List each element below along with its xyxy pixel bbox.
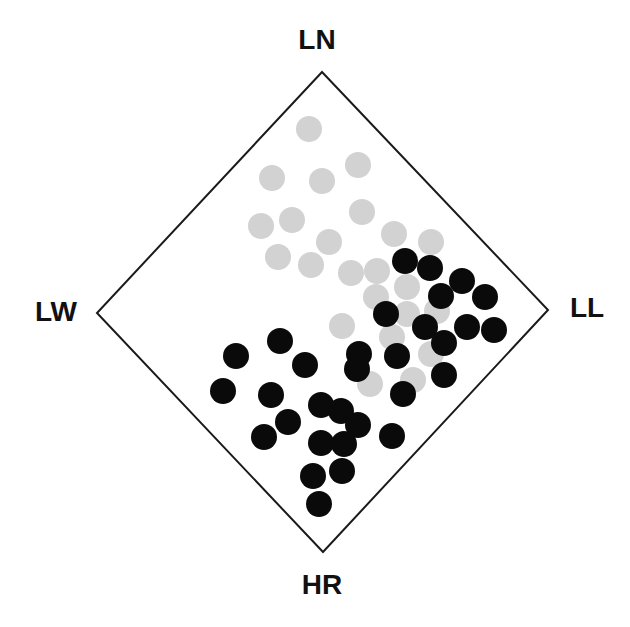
data-point-black [384, 343, 410, 369]
data-point-gray [381, 221, 407, 247]
data-point-gray [418, 229, 444, 255]
diamond-scatter-chart [0, 0, 630, 627]
data-point-black [251, 424, 277, 450]
data-point-gray [338, 260, 364, 286]
data-point-black [428, 283, 454, 309]
data-point-black [306, 491, 332, 517]
data-point-black [344, 356, 370, 382]
data-point-gray [298, 252, 324, 278]
data-point-gray [345, 152, 371, 178]
data-point-black [390, 381, 416, 407]
data-point-black [300, 463, 326, 489]
data-point-black [454, 314, 480, 340]
data-point-black [373, 301, 399, 327]
data-point-gray [394, 274, 420, 300]
data-point-gray [316, 229, 342, 255]
data-point-black [449, 268, 475, 294]
data-point-black [292, 352, 318, 378]
data-point-black [258, 382, 284, 408]
axis-label-bottom: HR [302, 569, 342, 601]
data-point-gray [364, 258, 390, 284]
data-point-gray [296, 116, 322, 142]
data-point-gray [349, 199, 375, 225]
axis-label-top: LN [298, 24, 335, 56]
data-point-black [481, 317, 507, 343]
data-point-black [392, 248, 418, 274]
data-point-black [308, 430, 334, 456]
data-point-gray [248, 213, 274, 239]
data-point-black [472, 284, 498, 310]
axis-label-left: LW [35, 296, 77, 328]
data-point-black [329, 458, 355, 484]
data-point-black [210, 378, 236, 404]
data-point-gray [259, 165, 285, 191]
data-point-black [431, 362, 457, 388]
data-point-black [431, 330, 457, 356]
data-point-gray [279, 207, 305, 233]
data-point-gray [265, 244, 291, 270]
data-point-black [417, 255, 443, 281]
data-point-gray [329, 313, 355, 339]
data-point-black [379, 423, 405, 449]
data-point-gray [309, 168, 335, 194]
data-point-black [267, 328, 293, 354]
data-point-black [275, 409, 301, 435]
data-point-black [331, 431, 357, 457]
data-point-black [223, 343, 249, 369]
axis-label-right: LL [570, 292, 604, 324]
